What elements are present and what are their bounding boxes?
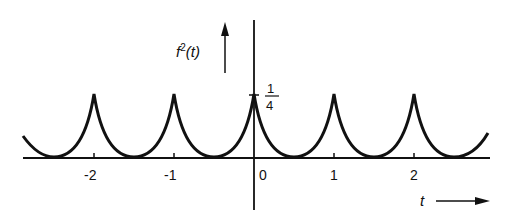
x-axis-label: t [420, 192, 425, 209]
x-tick-label-1: 1 [330, 167, 338, 183]
x-tick-label-0: 0 [259, 167, 267, 183]
y-axis-label: f2(t) [176, 42, 200, 60]
y-label-arrow-head [221, 22, 229, 36]
diagram-canvas: f2(t) 1 4 -2 -1 0 1 2 t [0, 0, 512, 216]
y-label-arg: (t) [186, 43, 200, 60]
x-tick-label-2: 2 [410, 167, 418, 183]
x-label-arrow-head [475, 197, 490, 205]
x-tick-label-neg2: -2 [84, 167, 97, 183]
x-tick-label-neg1: -1 [164, 167, 177, 183]
curve-f-squared [23, 94, 488, 157]
peak-label-numerator: 1 [267, 81, 274, 96]
peak-label-denominator: 4 [266, 98, 273, 113]
